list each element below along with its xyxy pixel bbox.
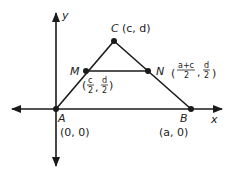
svg-text:a+c: a+c <box>178 61 194 70</box>
point-n-coords: ( a+c 2 , d 2 ) <box>171 61 216 80</box>
svg-text:(: ( <box>171 67 175 80</box>
svg-text:): ) <box>109 79 113 92</box>
svg-text:(: ( <box>82 79 86 92</box>
point-m-coords: ( c 2 , d 2 ) <box>82 76 113 95</box>
svg-text:c: c <box>88 76 92 85</box>
point-n <box>145 68 151 74</box>
triangle-midsegment-diagram: y x C (c, d) A (0, 0) B (a, 0) M ( c 2 ,… <box>0 0 234 178</box>
point-a-coords: (0, 0) <box>60 126 90 139</box>
point-c <box>111 38 117 44</box>
point-b-coords: (a, 0) <box>159 126 188 139</box>
svg-text:2: 2 <box>184 71 189 80</box>
svg-text:d: d <box>204 61 209 70</box>
svg-text:): ) <box>212 67 216 80</box>
svg-text:,: , <box>197 66 201 79</box>
point-m-name: M <box>70 65 80 78</box>
point-c-coords: (c, d) <box>122 22 151 35</box>
x-axis-label: x <box>210 113 218 126</box>
svg-text:2: 2 <box>204 71 209 80</box>
svg-text:,: , <box>95 81 99 94</box>
svg-text:d: d <box>102 76 107 85</box>
point-n-name: N <box>156 65 164 78</box>
y-axis-label: y <box>61 9 69 22</box>
svg-text:2: 2 <box>88 86 93 95</box>
point-b <box>188 106 194 112</box>
svg-text:2: 2 <box>102 86 107 95</box>
point-c-name: C <box>111 22 119 35</box>
point-m <box>83 68 89 74</box>
point-a-name: A <box>57 112 66 125</box>
point-b-name: B <box>180 112 188 125</box>
